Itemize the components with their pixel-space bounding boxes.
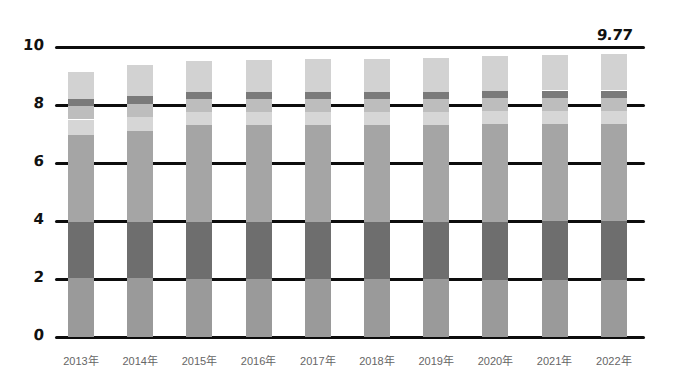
bar-segment-segment-5 (186, 99, 212, 112)
y-tick-label-6: 6 (7, 152, 44, 170)
bar-segment-segment-7 (482, 56, 508, 91)
bar-segment-segment-5 (542, 98, 568, 111)
bar-segment-segment-1 (364, 279, 390, 337)
bar-2020年[interactable] (482, 47, 508, 337)
x-axis-label-2018年: 2018年 (350, 352, 404, 368)
bar-segment-segment-3 (482, 124, 508, 221)
x-axis-label-2013年: 2013年 (54, 352, 108, 368)
bar-2015年[interactable] (186, 47, 212, 337)
bar-segment-segment-3 (186, 125, 212, 222)
bar-segment-segment-1 (68, 278, 94, 337)
plot-area: 10 8 6 4 2 0 2013年2014年2015年2016年2017年20… (0, 0, 684, 388)
bar-segment-segment-1 (542, 280, 568, 337)
bar-segment-segment-7 (542, 55, 568, 90)
bar-segment-segment-1 (246, 279, 272, 337)
bar-segment-segment-2 (482, 222, 508, 280)
x-axis-label-2022年: 2022年 (587, 352, 641, 368)
bar-segment-segment-6 (542, 91, 568, 98)
bar-segment-segment-4 (127, 117, 153, 132)
bar-segment-segment-3 (68, 135, 94, 222)
x-axis-label-2020年: 2020年 (468, 352, 522, 368)
x-axis-label-2017年: 2017年 (291, 352, 345, 368)
bar-segment-segment-6 (305, 92, 331, 99)
bar-segment-segment-5 (482, 98, 508, 111)
bar-segment-segment-7 (127, 65, 153, 96)
bar-segment-segment-2 (305, 222, 331, 279)
bar-segment-segment-4 (364, 112, 390, 125)
bar-segment-segment-2 (601, 221, 627, 280)
y-tick-label-0: 0 (7, 326, 44, 344)
bar-segment-segment-1 (482, 280, 508, 337)
bar-2014年[interactable] (127, 47, 153, 337)
bar-segment-segment-4 (482, 111, 508, 124)
bar-segment-segment-2 (127, 222, 153, 277)
bar-segment-segment-7 (68, 72, 94, 100)
bar-segment-segment-6 (68, 99, 94, 106)
bar-segment-segment-5 (601, 98, 627, 111)
bar-segment-segment-2 (186, 222, 212, 279)
bar-segment-segment-1 (305, 279, 331, 337)
x-axis-label-2015年: 2015年 (172, 352, 226, 368)
bar-segment-segment-6 (482, 91, 508, 98)
bar-segment-segment-4 (305, 112, 331, 125)
bar-segment-segment-2 (246, 222, 272, 279)
bar-segment-segment-3 (542, 124, 568, 221)
bar-segment-segment-4 (423, 112, 449, 125)
bar-2016年[interactable] (246, 47, 272, 337)
bar-segment-segment-1 (186, 279, 212, 337)
bar-segment-segment-1 (423, 279, 449, 337)
x-axis-label-2021年: 2021年 (528, 352, 582, 368)
bar-segment-segment-3 (246, 125, 272, 222)
bar-segment-segment-3 (127, 131, 153, 222)
value-annotation: 9.77 (596, 26, 633, 44)
y-tick-label-2: 2 (7, 268, 44, 286)
bar-segment-segment-3 (423, 125, 449, 222)
bar-segment-segment-4 (542, 111, 568, 124)
bar-segment-segment-5 (423, 99, 449, 112)
bar-segment-segment-3 (601, 124, 627, 221)
bar-2019年[interactable] (423, 47, 449, 337)
bar-segment-segment-7 (364, 59, 390, 92)
bar-segment-segment-5 (68, 106, 94, 119)
bar-segment-segment-6 (127, 96, 153, 103)
x-axis-label-2016年: 2016年 (232, 352, 286, 368)
bar-segment-segment-2 (364, 222, 390, 279)
bar-segment-segment-1 (601, 280, 627, 337)
bar-segment-segment-6 (601, 91, 627, 98)
bar-segment-segment-3 (305, 125, 331, 222)
bar-segment-segment-6 (186, 92, 212, 99)
bar-2018年[interactable] (364, 47, 390, 337)
bar-2013年[interactable] (68, 47, 94, 337)
bar-2021年[interactable] (542, 47, 568, 337)
bar-segment-segment-2 (542, 221, 568, 280)
bar-2017年[interactable] (305, 47, 331, 337)
bar-segment-segment-5 (364, 99, 390, 112)
bar-2022年[interactable] (601, 47, 627, 337)
bar-segment-segment-5 (305, 99, 331, 112)
bar-segment-segment-2 (423, 222, 449, 279)
bar-segment-segment-7 (601, 54, 627, 91)
chart-container: 10 8 6 4 2 0 2013年2014年2015年2016年2017年20… (0, 0, 684, 388)
y-tick-label-8: 8 (7, 94, 44, 112)
bar-segment-segment-4 (68, 120, 94, 136)
x-axis-label-2014年: 2014年 (113, 352, 167, 368)
bar-segment-segment-6 (246, 92, 272, 99)
bar-segment-segment-4 (246, 112, 272, 125)
bar-segment-segment-4 (186, 112, 212, 125)
bar-segment-segment-5 (246, 99, 272, 112)
bar-segment-segment-3 (364, 125, 390, 222)
bar-segment-segment-2 (68, 222, 94, 277)
bar-segment-segment-7 (186, 61, 212, 92)
bar-segment-segment-7 (246, 60, 272, 92)
bar-segment-segment-7 (423, 58, 449, 92)
x-axis-label-2019年: 2019年 (409, 352, 463, 368)
bar-segment-segment-6 (364, 92, 390, 99)
y-tick-label-4: 4 (7, 210, 44, 228)
bar-segment-segment-5 (127, 104, 153, 117)
bar-segment-segment-4 (601, 111, 627, 124)
bar-segment-segment-7 (305, 59, 331, 92)
bar-segment-segment-6 (423, 92, 449, 99)
y-tick-label-10: 10 (7, 36, 44, 54)
bar-segment-segment-1 (127, 278, 153, 337)
